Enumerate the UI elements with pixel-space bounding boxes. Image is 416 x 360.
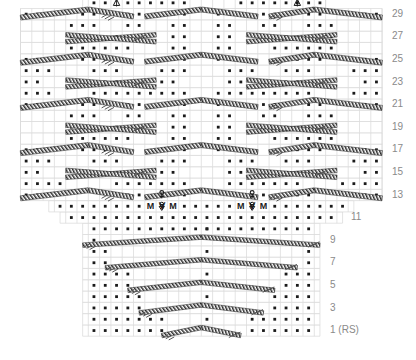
svg-text:M: M	[237, 201, 245, 211]
row-label-11: 11	[351, 211, 362, 222]
row-label-1: 1 (RS)	[330, 324, 359, 335]
svg-text:M: M	[147, 201, 155, 211]
row-label-7: 7	[330, 256, 336, 267]
row-label-21: 21	[392, 98, 404, 109]
row-label-13: 13	[392, 189, 404, 200]
chart-canvas: M∀MM∀M 1 (RS)357911131517192123252729	[0, 0, 416, 360]
row-label-9: 9	[330, 234, 336, 245]
row-label-5: 5	[330, 279, 336, 290]
row-label-27: 27	[392, 30, 404, 41]
row-label-15: 15	[392, 166, 404, 177]
knitting-chart: M∀MM∀M 1 (RS)357911131517192123252729	[0, 0, 416, 360]
row-label-3: 3	[330, 302, 336, 313]
svg-text:M: M	[169, 201, 177, 211]
row-label-17: 17	[392, 143, 404, 154]
row-label-29: 29	[392, 8, 404, 19]
row-label-19: 19	[392, 121, 404, 132]
row-label-23: 23	[392, 76, 404, 87]
svg-text:M: M	[260, 201, 268, 211]
row-label-25: 25	[392, 53, 404, 64]
grid-lines	[21, 0, 383, 336]
